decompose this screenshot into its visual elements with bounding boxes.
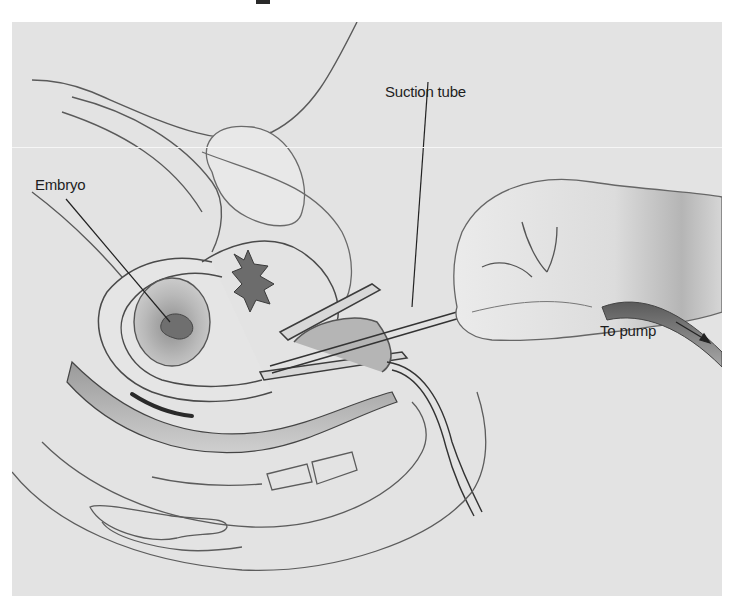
embryo-label: Embryo <box>35 176 85 193</box>
suction-tube-leader <box>412 82 428 307</box>
uterine-fundus <box>232 250 274 312</box>
top-crop-mark <box>256 0 270 4</box>
to-pump-label: To pump <box>600 322 656 339</box>
lower-contours <box>12 392 486 570</box>
gestational-sac <box>134 278 210 366</box>
illustration-panel: Suction tube Embryo To pump <box>12 22 722 596</box>
hand <box>454 179 722 340</box>
scan-artifact-line <box>12 147 722 148</box>
suction-tube-label: Suction tube <box>385 83 466 100</box>
speculum <box>260 284 407 380</box>
anatomical-illustration <box>12 22 722 596</box>
